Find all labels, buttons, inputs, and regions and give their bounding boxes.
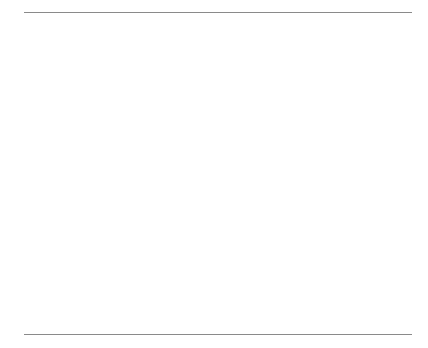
figure-container (0, 0, 428, 348)
clipped-figure-title (24, 0, 412, 5)
chart-svg (0, 0, 428, 348)
figure-bottom-rule (24, 334, 412, 335)
figure-top-rule (24, 12, 412, 13)
